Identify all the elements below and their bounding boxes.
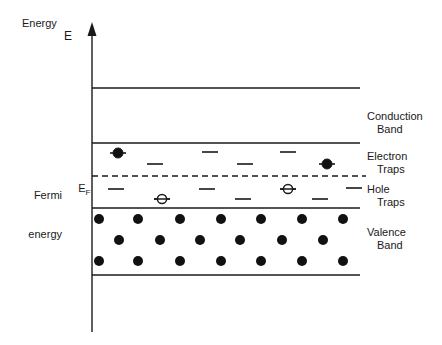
valence-electron-icon-r0-c6 [338, 214, 348, 224]
energy-axis-arrow-icon [88, 22, 97, 36]
energy-band-diagram: Energy E Fermi energy EF ConductionBandE… [0, 0, 442, 345]
fermi-energy-label-line2: energy [4, 228, 62, 241]
valence-band-label-line2: Band [367, 239, 406, 252]
valence-electron-icon-r2-c2 [175, 256, 185, 266]
conduction-band-label: ConductionBand [367, 110, 423, 136]
valence-electron-icon-r2-c5 [297, 256, 307, 266]
hole-traps-label: HoleTraps [367, 183, 405, 209]
fermi-symbol-base: E [78, 182, 85, 194]
valence-electron-icon-r0-c4 [256, 214, 266, 224]
valence-electron-icon-r2-c1 [133, 256, 143, 266]
valence-electron-icon-r0-c3 [216, 214, 226, 224]
valence-electron-icon-r0-c0 [94, 214, 104, 224]
valence-electron-icon-r2-c0 [94, 256, 104, 266]
electron-carrier-icon-5 [322, 159, 332, 169]
valence-electron-icon-r1-c0 [114, 235, 124, 245]
fermi-symbol-subscript: F [86, 188, 91, 197]
valence-electron-icon-r2-c4 [256, 256, 266, 266]
conduction-band-label-line2: Band [367, 123, 423, 136]
electron-traps-label: ElectronTraps [367, 150, 407, 176]
valence-electron-icon-r0-c1 [133, 214, 143, 224]
energy-axis-symbol: E [64, 30, 72, 43]
valence-electron-icon-r0-c5 [297, 214, 307, 224]
hole-traps-label-line1: Hole [367, 183, 405, 196]
fermi-level-symbol: EF [66, 169, 90, 208]
electron-carrier-icon-0 [113, 148, 123, 158]
electron-traps-label-line2: Traps [367, 163, 407, 176]
fermi-energy-label: Fermi energy [4, 163, 62, 267]
hole-traps-label-line2: Traps [367, 196, 405, 209]
valence-electron-icon-r1-c5 [318, 235, 328, 245]
valence-band-label: ValenceBand [367, 226, 406, 252]
valence-electron-icon-r1-c1 [155, 235, 165, 245]
valence-electron-icon-r2-c6 [338, 256, 348, 266]
energy-axis-title: Energy [22, 17, 82, 30]
valence-electron-icon-r1-c3 [235, 235, 245, 245]
fermi-energy-label-line1: Fermi [4, 189, 62, 202]
valence-electron-icon-r1-c2 [195, 235, 205, 245]
valence-electron-icon-r0-c2 [175, 214, 185, 224]
valence-electron-icon-r2-c3 [216, 256, 226, 266]
conduction-band-label-line1: Conduction [367, 110, 423, 123]
electron-traps-label-line1: Electron [367, 150, 407, 163]
valence-band-label-line1: Valence [367, 226, 406, 239]
valence-electron-icon-r1-c4 [277, 235, 287, 245]
